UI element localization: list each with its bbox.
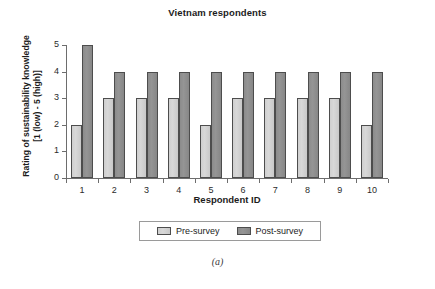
y-axis-tick-label: 3 bbox=[46, 93, 59, 102]
x-axis-tick bbox=[356, 179, 357, 183]
bar-pre-survey-9 bbox=[329, 98, 340, 178]
bar-pre-survey-5 bbox=[200, 125, 211, 178]
legend-item-post-survey[interactable]: Post-survey bbox=[237, 226, 304, 236]
chart-title: Vietnam respondents bbox=[0, 7, 435, 18]
y-axis-tick-label: 1 bbox=[46, 146, 59, 155]
x-axis-tick bbox=[98, 179, 99, 183]
x-axis-tick bbox=[227, 179, 228, 183]
y-axis-tick-label: 2 bbox=[46, 120, 59, 129]
bar-post-survey-5 bbox=[211, 72, 222, 178]
y-axis-tick bbox=[62, 151, 66, 152]
bar-post-survey-10 bbox=[372, 72, 383, 178]
y-axis-title: Rating of sustainability knowledge [1 (l… bbox=[21, 31, 43, 181]
bar-post-survey-4 bbox=[179, 72, 190, 178]
legend-item-pre-survey[interactable]: Pre-survey bbox=[157, 226, 220, 236]
y-axis-tick-label: 5 bbox=[46, 40, 59, 49]
figure: Vietnam respondents Rating of sustainabi… bbox=[0, 0, 435, 289]
y-axis-tick bbox=[62, 45, 66, 46]
bar-post-survey-9 bbox=[340, 72, 351, 178]
bar-post-survey-8 bbox=[308, 72, 319, 178]
y-axis-title-line-1: Rating of sustainability knowledge bbox=[21, 31, 32, 181]
y-axis-tick-label: 0 bbox=[46, 173, 59, 182]
bar-post-survey-3 bbox=[147, 72, 158, 178]
bar-pre-survey-4 bbox=[168, 98, 179, 178]
y-axis-line bbox=[66, 45, 67, 179]
bar-pre-survey-6 bbox=[232, 98, 243, 178]
bar-post-survey-7 bbox=[275, 72, 286, 178]
figure-caption: (a) bbox=[0, 256, 435, 267]
x-axis-tick bbox=[291, 179, 292, 183]
bar-post-survey-6 bbox=[243, 72, 254, 178]
bar-pre-survey-10 bbox=[361, 125, 372, 178]
bar-post-survey-1 bbox=[82, 45, 93, 178]
x-axis-tick bbox=[324, 179, 325, 183]
legend-label-pre-survey: Pre-survey bbox=[176, 226, 220, 236]
bar-pre-survey-2 bbox=[103, 98, 114, 178]
x-axis-title: Respondent ID bbox=[66, 194, 388, 205]
x-axis-tick bbox=[195, 179, 196, 183]
x-axis-tick bbox=[66, 179, 67, 183]
y-axis-tick bbox=[62, 125, 66, 126]
legend-swatch-pre-survey-icon bbox=[157, 227, 171, 235]
bar-pre-survey-8 bbox=[297, 98, 308, 178]
y-axis-tick bbox=[62, 98, 66, 99]
y-axis-tick bbox=[62, 72, 66, 73]
y-axis-title-line-2: [1 (low) - 5 (high)] bbox=[32, 31, 43, 181]
legend-label-post-survey: Post-survey bbox=[256, 226, 304, 236]
legend-swatch-post-survey-icon bbox=[237, 227, 251, 235]
bar-pre-survey-1 bbox=[71, 125, 82, 178]
x-axis-tick bbox=[130, 179, 131, 183]
x-axis-tick bbox=[163, 179, 164, 183]
plot-area: 012345 12345678910 bbox=[66, 45, 388, 178]
bar-post-survey-2 bbox=[114, 72, 125, 178]
bar-pre-survey-3 bbox=[136, 98, 147, 178]
chart-legend: Pre-survey Post-survey bbox=[139, 221, 321, 241]
y-axis-tick-label: 4 bbox=[46, 67, 59, 76]
x-axis-tick bbox=[259, 179, 260, 183]
x-axis-tick bbox=[388, 179, 389, 183]
bar-pre-survey-7 bbox=[264, 98, 275, 178]
